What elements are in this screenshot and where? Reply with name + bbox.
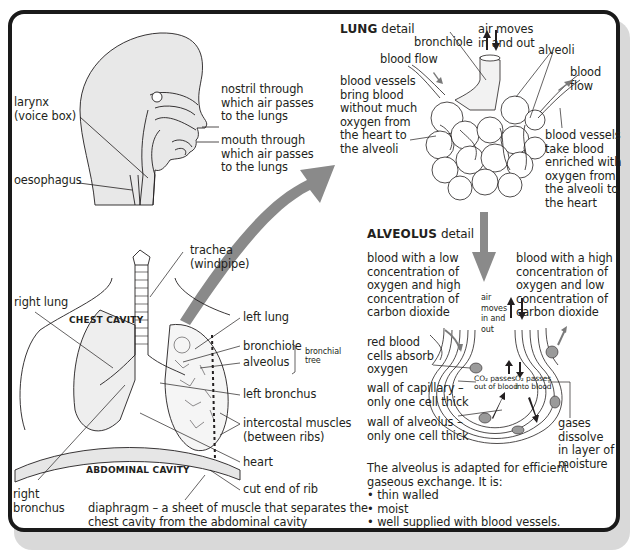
label-vessels-take-blood: blood vessels take blood enriched with o… bbox=[545, 129, 621, 211]
summary-bullet: • moist bbox=[367, 503, 568, 517]
label-alveolus-air-moves: air moves in and out bbox=[481, 293, 507, 335]
label-larynx: larynx (voice box) bbox=[14, 96, 76, 123]
label-blood-flow-out: blood flow bbox=[570, 66, 601, 93]
label-intercostal-muscles: intercostal muscles (between ribs) bbox=[243, 417, 351, 444]
head-illustration bbox=[80, 33, 207, 205]
zoom-arrow-to-alveolus bbox=[472, 212, 496, 282]
label-low-oxygen-blood: blood with a low concentration of oxygen… bbox=[367, 252, 461, 320]
label-bronchial-tree: bronchial tree bbox=[305, 347, 341, 365]
label-left-lung: left lung bbox=[243, 311, 289, 325]
label-bronchiole: bronchiole bbox=[243, 340, 302, 354]
label-nostril: nostril through which air passes to the … bbox=[221, 83, 314, 124]
label-abdominal-cavity: ABDOMINAL CAVITY bbox=[86, 464, 190, 478]
label-cut-end-of-rib: cut end of rib bbox=[243, 483, 318, 497]
label-co2-passes-out: CO₂ passes out of blood bbox=[474, 375, 518, 391]
label-high-oxygen-blood: blood with a high concentration of oxyge… bbox=[516, 252, 613, 320]
label-right-lung: right lung bbox=[14, 296, 68, 310]
summary-bullet: • well supplied with blood vessels. bbox=[367, 516, 568, 530]
label-red-blood-cells: red blood cells absorb oxygen bbox=[367, 336, 434, 377]
label-trachea: trachea (windpipe) bbox=[190, 244, 249, 271]
label-alveolus-wall: wall of alveolus – only one cell thick bbox=[367, 416, 469, 443]
label-oesophagus: oesophagus bbox=[14, 174, 82, 188]
label-alveoli: alveoli bbox=[538, 44, 575, 58]
label-heart: heart bbox=[243, 456, 273, 470]
label-o2-passes-in: O₂ passes into blood bbox=[515, 375, 552, 391]
label-blood-flow-in: blood flow bbox=[380, 53, 438, 67]
label-chest-cavity: CHEST CAVITY bbox=[69, 314, 143, 328]
label-capillary-wall: wall of capillary – only one cell thick bbox=[367, 382, 469, 409]
label-vessels-bring-blood: blood vessels bring blood without much o… bbox=[340, 75, 417, 157]
lung-detail-title: LUNG detail bbox=[340, 23, 415, 37]
label-alveolus: alveolus bbox=[243, 356, 289, 370]
trachea-rings bbox=[135, 272, 148, 344]
label-right-bronchus: right bronchus bbox=[13, 488, 65, 515]
alveolus-summary: The alveolus is adapted for efficient ga… bbox=[367, 462, 568, 530]
label-left-bronchus: left bronchus bbox=[243, 388, 316, 402]
label-lung-bronchiole: bronchiole bbox=[414, 36, 473, 50]
label-diaphragm: diaphragm – a sheet of muscle that separ… bbox=[88, 502, 368, 529]
alveolus-detail-title: ALVEOLUS detail bbox=[367, 228, 474, 242]
label-mouth: mouth through which air passes to the lu… bbox=[221, 134, 314, 175]
label-air-moves: air moves in and out bbox=[478, 23, 535, 50]
summary-bullet: • thin walled bbox=[367, 489, 568, 503]
